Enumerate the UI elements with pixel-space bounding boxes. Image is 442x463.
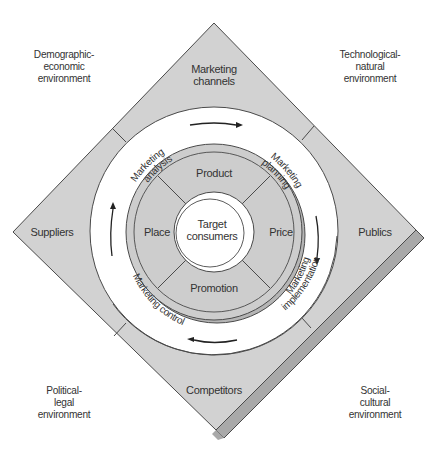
env-technological-natural: Technological- natural environment — [324, 48, 416, 84]
center-target: Target — [198, 218, 227, 230]
mix-price: Price — [269, 226, 293, 238]
env-social-cultural: Social- cultural environment — [334, 384, 417, 420]
env-political-legal: Political- legal environment — [24, 384, 105, 420]
env-line: Demographic- — [24, 48, 105, 60]
mix-product: Product — [196, 167, 232, 179]
actor-publics: Publics — [358, 226, 392, 238]
env-line: Technological- — [324, 48, 416, 60]
actor-suppliers: Suppliers — [30, 226, 74, 238]
env-line: environment — [334, 408, 417, 420]
env-line: economic — [24, 60, 105, 72]
actor-marketing-channels: Marketing — [191, 63, 237, 75]
env-demographic-economic: Demographic- economic environment — [24, 48, 105, 84]
env-line: cultural — [334, 396, 417, 408]
actor-marketing-channels-2: channels — [193, 75, 235, 87]
env-line: legal — [24, 396, 105, 408]
env-line: natural — [324, 60, 416, 72]
mix-place: Place — [144, 226, 170, 238]
env-line: environment — [324, 72, 416, 84]
env-line: environment — [24, 408, 105, 420]
env-line: Political- — [24, 384, 105, 396]
mix-promotion: Promotion — [190, 282, 238, 294]
actor-competitors: Competitors — [186, 384, 243, 396]
env-line: environment — [24, 72, 105, 84]
env-line: Social- — [334, 384, 417, 396]
center-consumers: consumers — [186, 230, 238, 242]
